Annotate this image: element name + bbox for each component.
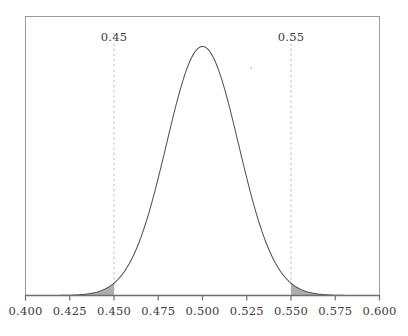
x-tick-label-5: 0.525: [230, 304, 264, 318]
x-tick-label-8: 0.600: [363, 304, 397, 318]
distribution-plot: [0, 0, 408, 336]
x-tick-label-6: 0.550: [274, 304, 308, 318]
x-tick-label-2: 0.450: [97, 304, 131, 318]
right-cutoff-label: 0.55: [278, 30, 304, 44]
image-speck-artifact: [250, 68, 252, 70]
x-tick-label-1: 0.425: [53, 304, 87, 318]
left-cutoff-label: 0.45: [101, 30, 127, 44]
x-tick-label-4: 0.500: [186, 304, 220, 318]
x-tick-label-3: 0.475: [141, 304, 175, 318]
x-tick-label-0: 0.400: [9, 304, 43, 318]
x-tick-label-7: 0.575: [318, 304, 352, 318]
left-tail-shaded-region: [26, 283, 115, 295]
normal-distribution-figure: 0.4000.4250.4500.4750.5000.5250.5500.575…: [0, 0, 408, 336]
right-tail-shaded-region: [291, 283, 380, 295]
plot-frame: [26, 17, 380, 296]
density-curve: [26, 47, 380, 296]
